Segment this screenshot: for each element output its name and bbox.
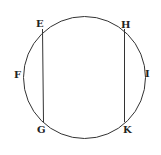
label-h: H [121,19,130,30]
main-circle [24,17,146,139]
label-e: E [36,18,44,29]
diagram-canvas: E F G H I K [0,0,161,155]
circle-diagram: E F G H I K [0,0,161,155]
label-g: G [37,124,46,135]
label-k: K [123,124,132,135]
label-f: F [14,69,21,80]
segment-eg [43,29,44,122]
label-i: I [145,68,150,79]
